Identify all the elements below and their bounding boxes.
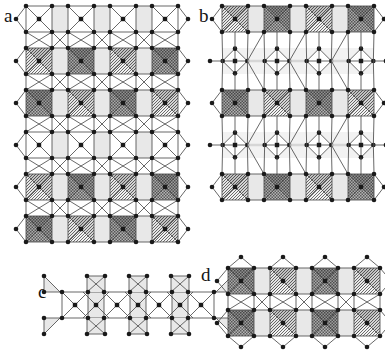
- panel-d-lattice: [0, 0, 385, 362]
- structure-figure: a b c d: [0, 0, 385, 362]
